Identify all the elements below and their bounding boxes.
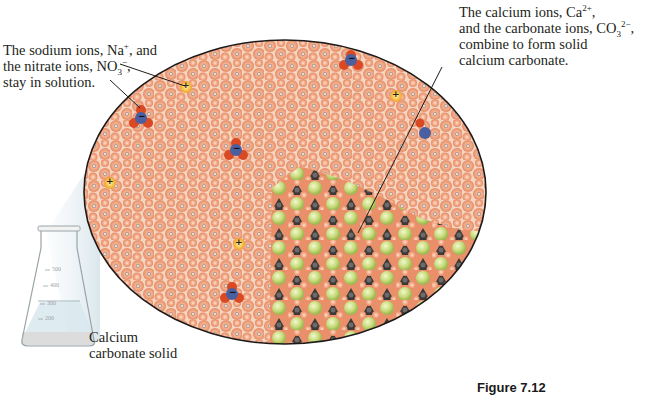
flask-graduation: 400 <box>50 282 59 288</box>
figure-caption: Figure 7.12 <box>477 380 546 395</box>
anion-minus-icon: − <box>229 287 237 297</box>
precipitate-solid <box>22 332 94 345</box>
calcium-carbonate-label: The calcium ions, Ca2+, and the carbonat… <box>459 4 634 68</box>
cation-plus-icon: + <box>392 89 400 99</box>
cation-plus-icon: + <box>182 80 190 90</box>
flask-graduation: 500 <box>52 266 61 272</box>
solid-label: Calcium carbonate solid <box>89 329 177 361</box>
cation-plus-icon: + <box>235 237 243 247</box>
sodium-nitrate-label: The sodium ions, Na+, and the nitrate io… <box>3 42 157 90</box>
anion-minus-icon: − <box>233 143 241 153</box>
flask-graduation: 300 <box>47 300 56 306</box>
anion-minus-icon: − <box>348 53 356 63</box>
flask-graduation: 200 <box>45 315 54 321</box>
cation-plus-icon: + <box>106 176 114 186</box>
anion-minus-icon: − <box>138 111 146 121</box>
